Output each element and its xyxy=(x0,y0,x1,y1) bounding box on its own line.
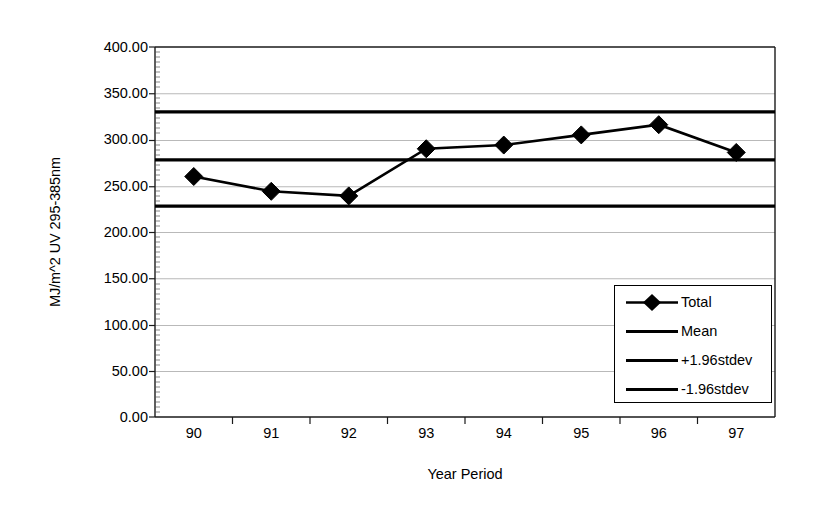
legend-item-lower-stdev[interactable]: -1.96stdev xyxy=(615,375,773,404)
diamond-marker-icon xyxy=(643,294,661,311)
legend-label: Mean xyxy=(681,317,717,346)
x-tick-label: 97 xyxy=(706,425,766,441)
x-tick-label: 95 xyxy=(551,425,611,441)
legend-swatch-total xyxy=(624,288,680,317)
legend-item-upper-stdev[interactable]: +1.96stdev xyxy=(615,346,773,375)
legend-label: +1.96stdev xyxy=(681,346,752,375)
x-tick-label: 94 xyxy=(474,425,534,441)
legend-label: Total xyxy=(681,288,712,317)
y-axis-major-ticks xyxy=(149,47,155,417)
legend-swatch-lower-stdev xyxy=(624,375,680,404)
chart-canvas: MJ/m^2 UV 295-385nm 400.00 350.00 300.00… xyxy=(0,0,813,510)
legend-label: -1.96stdev xyxy=(681,375,749,404)
legend-swatch-upper-stdev xyxy=(624,346,680,375)
legend-item-mean[interactable]: Mean xyxy=(615,317,773,346)
x-tick-label: 90 xyxy=(164,425,224,441)
x-tick-label: 96 xyxy=(629,425,689,441)
x-tick-label: 91 xyxy=(241,425,301,441)
legend-item-total[interactable]: Total xyxy=(615,288,773,317)
x-axis-ticks xyxy=(233,417,698,424)
legend-swatch-mean xyxy=(624,317,680,346)
legend[interactable]: Total Mean +1.96stdev -1.96stdev xyxy=(614,285,772,403)
x-axis-title: Year Period xyxy=(155,466,775,482)
x-tick-label: 93 xyxy=(396,425,456,441)
x-tick-label: 92 xyxy=(319,425,379,441)
